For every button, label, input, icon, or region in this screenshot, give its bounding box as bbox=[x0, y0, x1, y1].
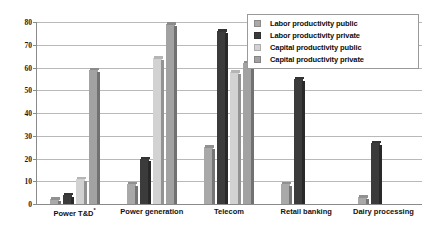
legend-item-label: Labor productivity private bbox=[270, 31, 360, 40]
bar[interactable] bbox=[89, 70, 100, 204]
y-axis-tick-label: 10 bbox=[25, 177, 33, 186]
legend-item[interactable]: Capital productivity private bbox=[252, 53, 414, 65]
bar-top bbox=[295, 77, 304, 80]
bar[interactable] bbox=[294, 79, 305, 204]
bar-top bbox=[359, 195, 368, 198]
bar[interactable] bbox=[50, 199, 61, 204]
bar[interactable] bbox=[153, 58, 164, 204]
x-axis-label: Power generation bbox=[113, 207, 190, 218]
x-axis-label: Retail banking bbox=[268, 207, 345, 218]
bar-slot bbox=[50, 22, 63, 204]
bar-side bbox=[366, 199, 369, 204]
bar-side bbox=[161, 60, 164, 204]
bar[interactable] bbox=[371, 143, 382, 204]
bar[interactable] bbox=[243, 63, 254, 204]
bar[interactable] bbox=[140, 159, 151, 205]
bar-top bbox=[64, 193, 73, 196]
legend-item[interactable]: Labor productivity public bbox=[252, 17, 414, 29]
bar-top bbox=[282, 182, 291, 185]
bar-side bbox=[135, 186, 138, 204]
legend-swatch-icon bbox=[254, 32, 261, 39]
bar-top bbox=[77, 177, 86, 180]
bar[interactable] bbox=[63, 195, 74, 204]
bar-slot bbox=[63, 22, 76, 204]
x-axis-label: Power T&D* bbox=[36, 207, 113, 218]
bar-top bbox=[231, 70, 240, 73]
legend-item[interactable]: Labor productivity private bbox=[252, 29, 414, 41]
bar[interactable] bbox=[358, 197, 369, 204]
legend-swatch-icon bbox=[254, 56, 261, 63]
y-axis-tick-label: 70 bbox=[25, 40, 33, 49]
x-axis-labels: Power T&D*Power generationTelecomRetail … bbox=[36, 207, 422, 218]
y-axis-tick-label: 40 bbox=[25, 109, 33, 118]
legend-swatch-icon bbox=[254, 44, 261, 51]
y-axis-tick-label: 60 bbox=[25, 63, 33, 72]
bar-slot bbox=[166, 22, 179, 204]
x-axis-label: Telecom bbox=[190, 207, 267, 218]
y-axis-tick-label: 50 bbox=[25, 86, 33, 95]
bar[interactable] bbox=[76, 179, 87, 204]
bar-slot bbox=[153, 22, 166, 204]
legend-item[interactable]: Capital productivity public bbox=[252, 41, 414, 53]
bar[interactable] bbox=[204, 147, 215, 204]
bar-top bbox=[128, 182, 137, 185]
bar-top bbox=[218, 29, 227, 32]
bar-side bbox=[302, 81, 305, 204]
bar-top bbox=[154, 56, 163, 59]
bar-side bbox=[84, 181, 87, 204]
bar-side bbox=[289, 186, 292, 204]
legend-item-label: Labor productivity public bbox=[270, 19, 358, 28]
bar-top bbox=[90, 68, 99, 71]
bar-chart: 01020304050607080 Power T&D*Power genera… bbox=[0, 0, 429, 241]
bar-slot bbox=[76, 22, 89, 204]
legend-item-label: Capital productivity private bbox=[270, 55, 364, 64]
bar-group bbox=[114, 22, 191, 204]
bar-side bbox=[148, 161, 151, 205]
bar-slot bbox=[127, 22, 140, 204]
y-axis-tick-label: 30 bbox=[25, 131, 33, 140]
bar-side bbox=[238, 74, 241, 204]
y-axis-tick bbox=[33, 204, 37, 205]
bar-side bbox=[58, 201, 61, 204]
bar-slot bbox=[230, 22, 243, 204]
legend-item-label: Capital productivity public bbox=[270, 43, 361, 52]
bar-slot bbox=[217, 22, 230, 204]
y-axis-tick-label: 0 bbox=[28, 200, 32, 209]
legend-swatch-icon bbox=[254, 20, 261, 27]
x-axis-label: Dairy processing bbox=[345, 207, 422, 218]
bar-side bbox=[251, 65, 254, 204]
bar-side bbox=[97, 72, 100, 204]
bar[interactable] bbox=[281, 184, 292, 204]
bar-slot bbox=[204, 22, 217, 204]
bar[interactable] bbox=[230, 72, 241, 204]
bar[interactable] bbox=[217, 31, 228, 204]
bar-side bbox=[174, 26, 177, 204]
y-axis-tick-label: 20 bbox=[25, 154, 33, 163]
bar[interactable] bbox=[166, 24, 177, 204]
bar-slot bbox=[89, 22, 102, 204]
bar-slot bbox=[140, 22, 153, 204]
bar-top bbox=[372, 141, 381, 144]
bar-side bbox=[212, 149, 215, 204]
bar-top bbox=[205, 145, 214, 148]
bar-side bbox=[379, 145, 382, 204]
bar-group bbox=[37, 22, 114, 204]
bar-side bbox=[225, 33, 228, 204]
bar-top bbox=[167, 22, 176, 25]
chart-legend: Labor productivity publicLabor productiv… bbox=[247, 14, 419, 69]
bar[interactable] bbox=[127, 184, 138, 204]
bar-top bbox=[51, 197, 60, 200]
bar-side bbox=[71, 197, 74, 204]
y-axis-tick-label: 80 bbox=[25, 18, 33, 27]
bar-top bbox=[141, 157, 150, 160]
